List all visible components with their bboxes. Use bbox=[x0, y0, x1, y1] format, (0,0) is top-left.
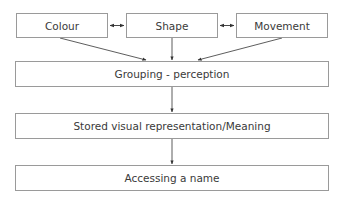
node-colour-label: Colour bbox=[45, 20, 79, 32]
node-access-label: Accessing a name bbox=[124, 172, 219, 184]
arrow-colour-grouping bbox=[60, 38, 146, 60]
node-shape-label: Shape bbox=[156, 20, 189, 32]
node-stored-representation: Stored visual representation/Meaning bbox=[15, 113, 329, 139]
node-stored-label: Stored visual representation/Meaning bbox=[73, 120, 270, 132]
node-grouping-perception: Grouping - perception bbox=[15, 61, 329, 87]
node-movement-label: Movement bbox=[254, 20, 310, 32]
node-colour: Colour bbox=[16, 13, 108, 38]
node-accessing-name: Accessing a name bbox=[15, 165, 329, 191]
node-grouping-label: Grouping - perception bbox=[115, 68, 230, 80]
node-movement: Movement bbox=[236, 13, 328, 38]
node-shape: Shape bbox=[126, 13, 218, 38]
arrow-movement-grouping bbox=[198, 38, 282, 60]
